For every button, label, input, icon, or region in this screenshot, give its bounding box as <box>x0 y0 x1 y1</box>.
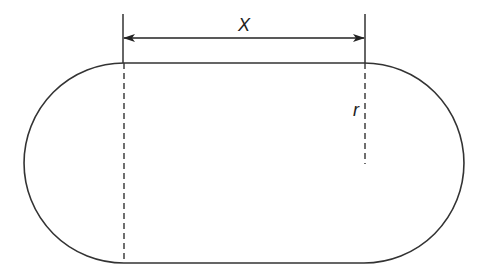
radius-label: r <box>353 100 360 120</box>
length-label: X <box>237 15 251 35</box>
stadium-outline <box>24 63 464 263</box>
stadium-diagram: X r <box>0 0 487 280</box>
